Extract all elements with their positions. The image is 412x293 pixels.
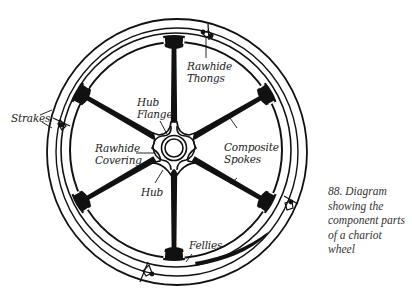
label-line: Flange [137, 108, 172, 120]
caption-line: 88. Diagram [328, 184, 412, 199]
label-hub: Hub [141, 186, 163, 198]
label-composite-spokes: Composite Spokes [224, 141, 279, 165]
label-line: Hub [141, 186, 163, 198]
label-line: Covering [95, 154, 142, 166]
label-fellies: Fellies [189, 239, 222, 251]
label-rawhide-thongs: Rawhide Thongs [187, 60, 232, 84]
label-line: Strakes [11, 112, 50, 124]
label-line: Fellies [189, 239, 222, 251]
label-line: Rawhide [95, 142, 142, 154]
caption-line: of a chariot [328, 228, 412, 243]
label-line: Thongs [187, 72, 232, 84]
label-line: Rawhide [187, 60, 232, 72]
label-line: Composite [224, 141, 279, 153]
label-strakes: Strakes [11, 112, 50, 124]
caption-line: wheel [328, 242, 412, 257]
label-line: Spokes [224, 153, 279, 165]
label-rawhide-covering: Rawhide Covering [95, 142, 142, 166]
label-line: Hub [137, 96, 172, 108]
label-hub-flange: Hub Flange [137, 96, 172, 120]
figure-caption: 88. Diagram showing the component parts … [328, 184, 412, 257]
hub-flange [150, 122, 198, 175]
caption-line: showing the [328, 199, 412, 214]
caption-line: component parts [328, 213, 412, 228]
